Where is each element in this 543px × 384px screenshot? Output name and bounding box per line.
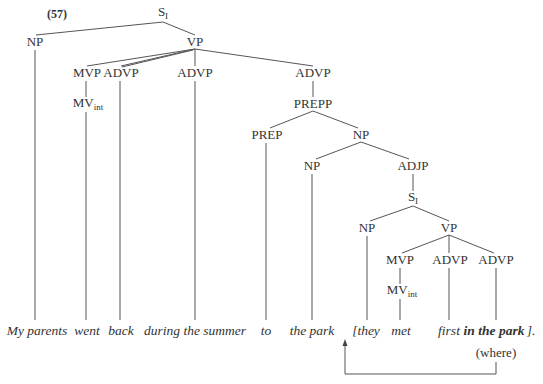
node-advp-in-the-park: ADVP	[478, 253, 513, 267]
syntax-tree-diagram: (57) SI NP VP MVP ADVP ADVP ADVP MVint P…	[0, 0, 543, 384]
node-advp-first: ADVP	[432, 253, 467, 267]
node-prepp: PREPP	[294, 97, 332, 111]
word-the-park: the park	[290, 323, 335, 339]
word-my-parents: My parents	[7, 323, 68, 339]
node-subscript: I	[415, 196, 418, 206]
node-subscript: int	[94, 102, 104, 112]
node-mvp-main: MVP	[73, 66, 101, 80]
word-they: [they	[352, 323, 380, 339]
node-subscript: int	[408, 289, 418, 299]
example-number: (57)	[47, 7, 67, 22]
node-advp-during: ADVP	[177, 66, 212, 80]
node-label: MV	[387, 282, 408, 297]
node-vp-main: VP	[187, 35, 204, 49]
node-np-park: NP	[304, 159, 321, 173]
word-back: back	[108, 323, 133, 339]
word-during-the-summer: during the summer	[144, 323, 246, 339]
node-np-subject: NP	[27, 35, 44, 49]
node-np-object: NP	[353, 128, 370, 142]
node-mv-relative: MVint	[387, 283, 417, 301]
node-mv-main: MVint	[73, 96, 103, 114]
word-went: went	[74, 323, 100, 339]
node-vp-relative: VP	[441, 221, 458, 235]
node-advp-back: ADVP	[103, 66, 138, 80]
arrow-icon	[342, 339, 348, 347]
node-prep: PREP	[251, 128, 282, 142]
node-root-s: SI	[158, 5, 168, 23]
word-closing-bracket: ].	[527, 323, 536, 339]
node-label: MV	[73, 95, 94, 110]
node-subscript: I	[165, 11, 168, 21]
node-adjp: ADJP	[397, 159, 428, 173]
node-s-relative: SI	[408, 190, 418, 208]
word-first: first	[438, 323, 460, 339]
node-np-they: NP	[359, 221, 376, 235]
word-met: met	[391, 323, 411, 339]
annotation-where: (where)	[476, 345, 516, 361]
word-to: to	[261, 323, 272, 339]
node-advp-to: ADVP	[295, 66, 330, 80]
node-mvp-relative: MVP	[386, 253, 414, 267]
word-in-the-park: in the park	[464, 323, 525, 339]
